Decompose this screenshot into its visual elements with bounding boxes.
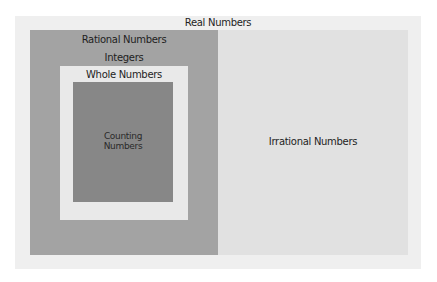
counting-numbers-label-line2: Numbers <box>73 141 173 151</box>
irrational-numbers-label: Irrational Numbers <box>218 136 408 147</box>
real-numbers-label: Real Numbers <box>15 17 421 28</box>
whole-numbers-label: Whole Numbers <box>60 69 188 80</box>
integers-label: Integers <box>30 52 218 63</box>
rational-numbers-label: Rational Numbers <box>30 34 218 45</box>
counting-numbers-label-line1: Counting <box>73 131 173 141</box>
